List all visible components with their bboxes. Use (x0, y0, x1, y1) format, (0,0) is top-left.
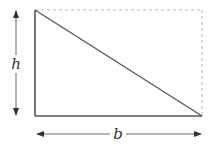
height-dimension: h (11, 11, 21, 115)
triangle-diagram: h b (0, 0, 211, 147)
triangle-hypotenuse (35, 10, 202, 116)
base-label: b (113, 125, 123, 143)
height-label: h (11, 55, 21, 73)
base-dimension: b (37, 125, 201, 143)
right-triangle (35, 10, 202, 116)
